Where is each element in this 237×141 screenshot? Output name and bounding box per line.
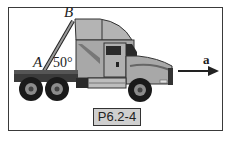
point-b-label: B <box>64 4 73 21</box>
acceleration-label: a <box>203 52 210 68</box>
acceleration-arrow <box>178 66 219 76</box>
angle-label: 50° <box>53 55 73 71</box>
rear-wheel-2 <box>45 77 69 101</box>
point-a-label: A <box>33 54 42 71</box>
front-wheel <box>128 78 152 102</box>
rear-wheel-1 <box>19 77 43 101</box>
problem-id-tag: P6.2-4 <box>93 108 141 126</box>
